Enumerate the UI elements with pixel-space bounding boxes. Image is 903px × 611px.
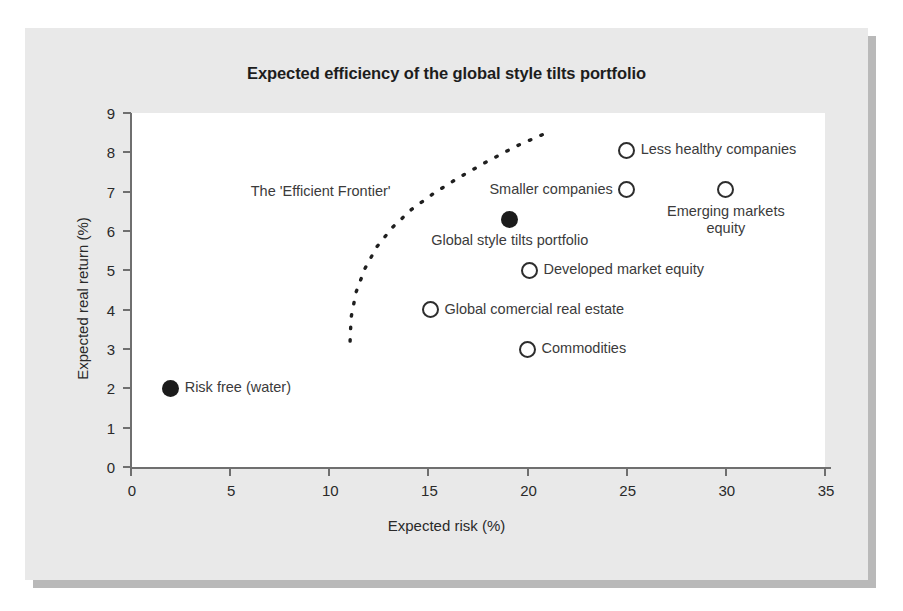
- data-point-marker: [519, 341, 536, 358]
- page-title: Expected efficiency of the global style …: [25, 64, 868, 83]
- x-tick: [626, 468, 628, 476]
- y-axis-line: [130, 113, 132, 468]
- x-tick-label: 0: [112, 483, 152, 498]
- plot-area: [131, 113, 825, 467]
- x-tick-label: 15: [409, 483, 449, 498]
- data-point-label: Commodities: [542, 340, 627, 357]
- data-point-label: Global comercial real estate: [444, 301, 624, 318]
- x-tick-label: 30: [707, 483, 747, 498]
- efficient-frontier-label: The 'Efficient Frontier': [251, 183, 391, 199]
- x-tick: [130, 468, 132, 476]
- y-tick: [123, 348, 131, 350]
- y-tick: [123, 309, 131, 311]
- y-tick: [123, 269, 131, 271]
- x-tick: [527, 468, 529, 476]
- x-tick-label: 35: [806, 483, 846, 498]
- y-tick: [123, 191, 131, 193]
- x-tick: [328, 468, 330, 476]
- y-tick-label: 9: [85, 106, 115, 121]
- data-point-marker: [422, 301, 439, 318]
- data-point-marker: [162, 380, 179, 397]
- data-point-label: Less healthy companies: [641, 142, 797, 159]
- x-tick: [725, 468, 727, 476]
- y-tick: [123, 427, 131, 429]
- y-axis-title: Expected real return (%): [74, 124, 91, 474]
- data-point-label: Risk free (water): [185, 380, 291, 397]
- y-tick: [123, 387, 131, 389]
- y-tick: [123, 230, 131, 232]
- data-point-marker: [521, 262, 538, 279]
- x-tick-label: 5: [211, 483, 251, 498]
- data-point-label: Emerging markets equity: [667, 203, 785, 237]
- y-tick: [123, 112, 131, 114]
- data-point-label: Developed market equity: [544, 262, 704, 279]
- figure-panel: Expected efficiency of the global style …: [25, 28, 868, 580]
- y-tick: [123, 151, 131, 153]
- data-point-label: Smaller companies: [489, 181, 612, 198]
- data-point-label: Global style tilts portfolio: [431, 232, 588, 249]
- x-tick: [824, 468, 826, 476]
- x-tick: [427, 468, 429, 476]
- x-tick-label: 20: [509, 483, 549, 498]
- x-axis-title: Expected risk (%): [25, 517, 868, 534]
- data-point-marker: [618, 142, 635, 159]
- x-tick-label: 10: [310, 483, 350, 498]
- x-tick: [229, 468, 231, 476]
- data-point-marker: [501, 211, 518, 228]
- x-tick-label: 25: [608, 483, 648, 498]
